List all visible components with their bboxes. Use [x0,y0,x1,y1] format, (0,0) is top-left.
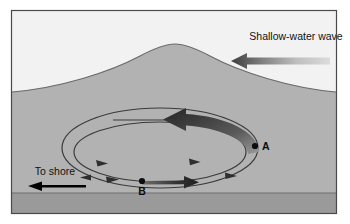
point-a-label: A [262,140,270,152]
diagram-figure: Shallow-water wave A [0,0,350,224]
point-b-dot [139,178,145,184]
seafloor [12,193,336,214]
seafloor-group [12,193,336,214]
point-b: B [138,178,146,197]
point-b-label: B [138,185,146,197]
wave-label: Shallow-water wave [249,30,343,42]
shallow-water-wave-diagram: Shallow-water wave A [0,0,350,224]
shore-label: To shore [35,165,75,177]
point-a-dot [252,143,258,149]
